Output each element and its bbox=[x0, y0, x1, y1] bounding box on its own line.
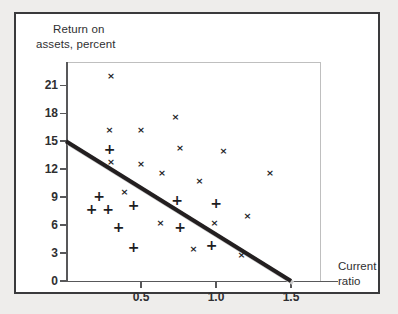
y-axis-label-line-1: Return on bbox=[36, 22, 176, 37]
y-tick-label: 12 bbox=[32, 162, 58, 176]
plot-frame bbox=[66, 62, 321, 282]
y-tick-label: 0 bbox=[32, 274, 58, 288]
x-tick-mark bbox=[290, 281, 292, 288]
x-axis-line bbox=[66, 281, 338, 283]
figure-card: Return on assets, percent Current ratio … bbox=[14, 12, 380, 294]
scatter-chart: Return on assets, percent Current ratio … bbox=[16, 14, 378, 292]
x-axis-label: Current ratio bbox=[338, 259, 398, 288]
x-tick-mark bbox=[140, 281, 142, 288]
x-axis-label-line-2: ratio bbox=[338, 274, 398, 289]
y-tick-mark bbox=[60, 252, 67, 254]
y-tick-mark bbox=[60, 85, 67, 87]
y-tick-mark bbox=[60, 140, 67, 142]
y-axis-label-line-2: assets, percent bbox=[36, 37, 176, 52]
y-axis-line bbox=[66, 62, 68, 282]
y-tick-mark bbox=[60, 280, 67, 282]
y-tick-label: 6 bbox=[32, 218, 58, 232]
y-tick-label: 9 bbox=[32, 190, 58, 204]
x-axis-label-line-1: Current bbox=[338, 259, 398, 274]
y-tick-label: 15 bbox=[32, 134, 58, 148]
y-tick-label: 3 bbox=[32, 246, 58, 260]
y-tick-mark bbox=[60, 113, 67, 115]
y-tick-mark bbox=[60, 168, 67, 170]
y-tick-label: 18 bbox=[32, 106, 58, 120]
x-tick-mark bbox=[215, 281, 217, 288]
x-tick-label: 1.5 bbox=[271, 290, 311, 304]
x-tick-label: 0.5 bbox=[121, 290, 161, 304]
x-tick-label: 1.0 bbox=[196, 290, 236, 304]
y-tick-mark bbox=[60, 196, 67, 198]
y-tick-label: 21 bbox=[32, 78, 58, 92]
y-axis-label: Return on assets, percent bbox=[36, 22, 176, 51]
page-background: Return on assets, percent Current ratio … bbox=[0, 0, 398, 314]
y-tick-mark bbox=[60, 224, 67, 226]
